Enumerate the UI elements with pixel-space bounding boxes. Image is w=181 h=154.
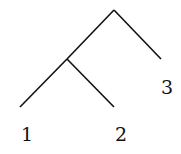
leaf-label-1: 1 (21, 123, 33, 145)
edge-internal-leaf-2 (67, 59, 114, 107)
edge-internal-leaf-1 (20, 59, 67, 107)
leaf-label-2: 2 (115, 123, 127, 145)
edge-root-leaf-3 (114, 10, 161, 59)
tree-diagram: 1 2 3 (0, 0, 181, 154)
edge-root-internal (67, 10, 114, 59)
leaf-label-3: 3 (161, 76, 173, 98)
